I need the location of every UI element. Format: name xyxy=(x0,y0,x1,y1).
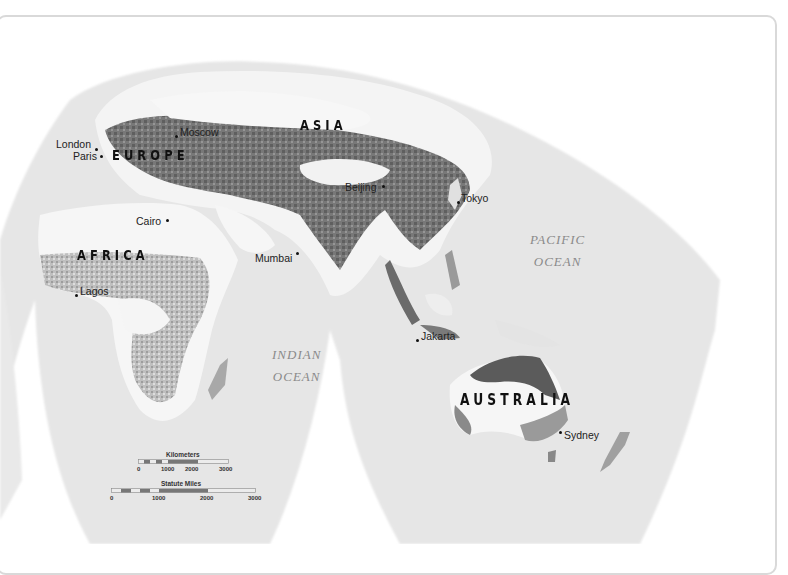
ocean-label-pacific: PACIFIC OCEAN xyxy=(530,229,585,273)
scale-title-kilometers: Kilometers xyxy=(166,451,200,458)
city-marker-beijing xyxy=(382,185,385,188)
scale-bar-kilometers xyxy=(138,459,230,465)
city-marker-tokyo xyxy=(457,201,460,204)
scale-km-tick-0: 0 xyxy=(137,466,140,472)
scale-km-tick-2000: 2000 xyxy=(185,466,198,472)
city-label-paris: Paris xyxy=(73,151,97,162)
city-label-cairo: Cairo xyxy=(136,216,161,227)
city-label-sydney: Sydney xyxy=(564,430,599,441)
city-label-mumbai: Mumbai xyxy=(255,253,292,264)
city-marker-mumbai xyxy=(296,252,299,255)
ocean-label-pacific-line2: OCEAN xyxy=(530,251,585,273)
ocean-label-indian: INDIAN OCEAN xyxy=(272,344,321,388)
city-label-tokyo: Tokyo xyxy=(461,193,488,204)
city-label-beijing: Beijing xyxy=(345,182,377,193)
city-marker-sydney xyxy=(559,431,562,434)
continent-label-asia: ASIA xyxy=(300,117,347,133)
city-marker-cairo xyxy=(166,219,169,222)
scale-bar-miles xyxy=(111,488,257,494)
ocean-label-indian-line1: INDIAN xyxy=(272,344,321,366)
scale-km-tick-3000: 3000 xyxy=(219,466,232,472)
scale-mi-tick-1000: 1000 xyxy=(152,495,165,501)
continent-label-africa: AFRICA xyxy=(77,247,149,263)
continent-label-europe: EUROPE xyxy=(112,147,189,163)
scale-mi-tick-3000: 3000 xyxy=(248,495,261,501)
city-label-lagos: Lagos xyxy=(80,286,109,297)
scale-km-tick-1000: 1000 xyxy=(161,466,174,472)
city-label-london: London xyxy=(56,139,91,150)
scale-title-miles: Statute Miles xyxy=(161,480,201,487)
scale-mi-tick-2000: 2000 xyxy=(200,495,213,501)
city-label-jakarta: Jakarta xyxy=(421,331,455,342)
city-marker-paris xyxy=(100,155,103,158)
ocean-label-pacific-line1: PACIFIC xyxy=(530,229,585,251)
city-marker-lagos xyxy=(75,294,78,297)
ocean-label-indian-line2: OCEAN xyxy=(272,366,321,388)
city-marker-moscow xyxy=(175,135,178,138)
city-label-moscow: Moscow xyxy=(180,127,219,138)
city-marker-jakarta xyxy=(416,339,419,342)
scale-mi-tick-0: 0 xyxy=(110,495,113,501)
continent-label-australia: AUSTRALIA xyxy=(460,391,574,409)
